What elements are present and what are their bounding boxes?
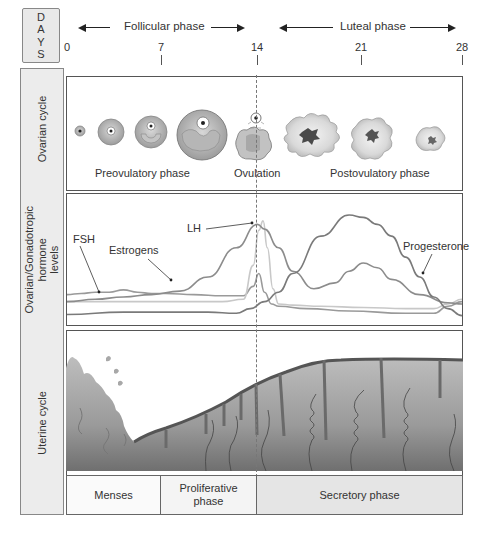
- corpus-albicans-icon: [416, 127, 445, 151]
- ovarian-cycle-label: Ovarian cycle: [20, 68, 64, 190]
- proliferative-label-line: phase: [194, 495, 224, 508]
- uterine-cycle-label: Uterine cycle: [20, 330, 64, 515]
- primordial-follicle-icon: [75, 126, 85, 136]
- menstrual-fragments: [106, 356, 123, 386]
- proliferative-phase-cell: Proliferative phase: [160, 475, 257, 515]
- fsh-curve: [67, 274, 462, 314]
- menses-phase-cell: Menses: [66, 475, 161, 515]
- arrow-left-icon: [80, 27, 110, 28]
- endometrium-illustration: [66, 330, 463, 476]
- corpus-luteum-regressing-icon: [351, 118, 392, 159]
- day-tick-label: 21: [355, 41, 367, 53]
- day-tick-label: 7: [158, 41, 164, 53]
- days-label-box: D A Y S: [22, 8, 60, 63]
- lh-label: LH: [187, 222, 201, 234]
- follicular-phase-heading: Follicular phase: [124, 20, 205, 32]
- ovulation-label: Ovulation: [234, 167, 280, 179]
- days-letter: A: [37, 23, 44, 36]
- hormone-label-line: Ovarian/Gonadotropic: [23, 206, 36, 314]
- days-letter: Y: [37, 36, 44, 49]
- day-tick-label: 0: [64, 41, 70, 53]
- hormone-levels-label: Ovarian/Gonadotropic hormone levels: [20, 192, 64, 327]
- postovulatory-phase-label: Postovulatory phase: [330, 167, 430, 179]
- hormone-label-line: levels: [48, 206, 61, 314]
- hormone-curves-chart: [66, 193, 463, 326]
- secretory-phase-cell: Secretory phase: [256, 475, 463, 515]
- days-letter: D: [37, 11, 45, 24]
- uterine-cycle-text: Uterine cycle: [36, 391, 48, 455]
- arrow-right-icon: [211, 27, 243, 28]
- day-tick: [462, 55, 463, 65]
- proliferative-label-line: Proliferative: [179, 482, 237, 495]
- lh-curve: [67, 221, 462, 309]
- day-tick: [361, 55, 362, 65]
- hormone-label-line: hormone: [36, 206, 49, 314]
- day-tick-label: 28: [456, 41, 468, 53]
- ovulation-follicle-icon: [236, 113, 272, 160]
- secretory-label: Secretory phase: [319, 489, 399, 502]
- luteal-phase-heading: Luteal phase: [340, 20, 406, 32]
- day-tick: [161, 55, 162, 65]
- estrogens-label: Estrogens: [109, 244, 159, 256]
- menses-label: Menses: [94, 489, 133, 502]
- ovarian-cycle-text: Ovarian cycle: [36, 96, 48, 163]
- arrow-right-icon: [410, 27, 454, 28]
- fsh-label: FSH: [73, 233, 95, 245]
- arrow-left-icon: [281, 27, 333, 28]
- days-letter: S: [37, 48, 44, 61]
- ovulation-dashed-line: [256, 75, 257, 477]
- primary-follicle-icon: [98, 119, 124, 145]
- progesterone-label: Progesterone: [403, 240, 469, 252]
- corpus-luteum-icon: [284, 113, 340, 156]
- day-tick: [257, 55, 258, 65]
- tertiary-follicle-icon: [177, 110, 227, 160]
- preovulatory-phase-label: Preovulatory phase: [95, 167, 190, 179]
- day-tick-label: 14: [251, 41, 263, 53]
- secondary-follicle-icon: [135, 116, 167, 148]
